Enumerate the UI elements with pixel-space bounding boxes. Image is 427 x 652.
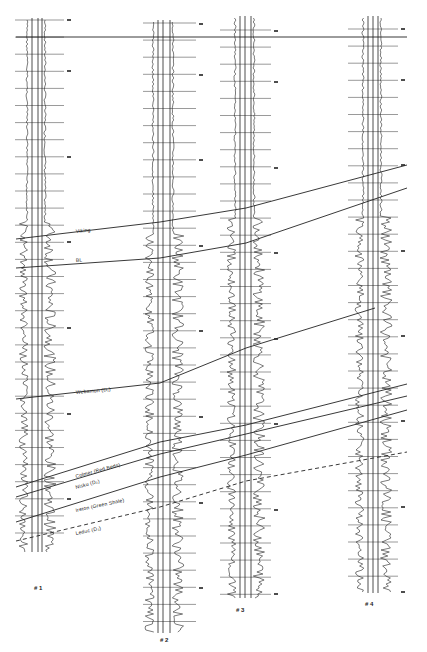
well-4 [348,16,405,593]
horizon-label-colmer: Colmer (Red Beds) [75,461,121,479]
well-3 [220,16,278,598]
depth-mark [401,79,405,81]
depth-mark [67,413,71,415]
resistivity-log-curve [253,18,265,598]
log-curves-layer [19,18,392,632]
depth-mark [401,28,405,30]
depth-mark [401,506,405,508]
well-log-cross-section: Viking BL Webamun (D₁) Colmer (Red Beds)… [0,0,427,652]
sp-log-curve [19,20,28,552]
depth-mark [274,30,278,32]
horizon-label-bl: BL [76,257,83,263]
depth-mark [274,252,278,254]
sp-log-curve [145,22,154,632]
resistivity-log-curve [172,22,184,632]
depth-mark [67,19,71,21]
resistivity-log-curve [380,18,392,592]
well-label-1: # 1 [34,585,43,591]
depth-mark [199,502,203,504]
depth-mark [401,335,405,337]
horizon-label-viking: Viking [75,226,90,234]
depth-mark [199,159,203,161]
depth-mark [67,498,71,500]
well-label-2: # 2 [160,637,169,643]
depth-mark [67,327,71,329]
depth-mark [274,167,278,169]
depth-mark [274,593,278,595]
depth-mark [199,23,203,25]
horizon-leduc [16,452,407,541]
horizon-label-nisku: Nisku (D₂) [75,478,101,490]
depth-mark [401,591,405,593]
horizon-ireton [16,410,407,522]
depth-mark [274,509,278,511]
resistivity-log-curve [44,20,56,552]
depth-mark [401,420,405,422]
sp-log-curve [355,18,364,592]
depth-mark [199,74,203,76]
depth-mark [67,70,71,72]
depth-mark [274,81,278,83]
depth-mark [67,241,71,243]
well-1 [15,18,71,552]
depth-mark [199,330,203,332]
depth-mark [199,245,203,247]
depth-mark [199,587,203,589]
well-label-3: # 3 [236,607,245,613]
horizon-webamun [16,308,375,399]
well-label-4: # 4 [365,601,374,607]
depth-mark [401,250,405,252]
sp-log-curve [227,18,236,598]
depth-mark [199,416,203,418]
depth-mark [67,156,71,158]
horizon-label-ireton: Ireton (Green Shale) [75,497,125,513]
depth-mark [274,423,278,425]
horizon-label-wabamun: Webamun (D₁) [76,386,112,395]
horizon-nisku [16,396,407,497]
horizon-colmer [16,384,407,487]
wells-layer [15,16,405,633]
